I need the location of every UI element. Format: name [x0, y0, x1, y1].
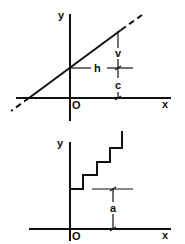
origin-label: O — [72, 99, 81, 111]
v-label: v — [115, 47, 122, 59]
linear-graph: y x O h v c — [11, 9, 171, 121]
y-axis-label: y — [58, 9, 65, 21]
origin-label: O — [72, 230, 81, 242]
c-label: c — [115, 79, 121, 91]
staircase-graph: y x O a — [29, 131, 171, 242]
slope-line-dashed-upper — [121, 15, 142, 30]
staircase-line — [70, 131, 122, 189]
slope-line-dashed-lower — [11, 98, 29, 111]
a-label: a — [110, 202, 117, 214]
y-axis-label: y — [57, 137, 64, 149]
h-label: h — [94, 62, 101, 74]
slope-line — [29, 30, 121, 98]
x-axis-label: x — [162, 98, 169, 110]
x-axis-label: x — [162, 229, 169, 241]
diagram-canvas: y x O h v c y x O a — [0, 0, 185, 244]
